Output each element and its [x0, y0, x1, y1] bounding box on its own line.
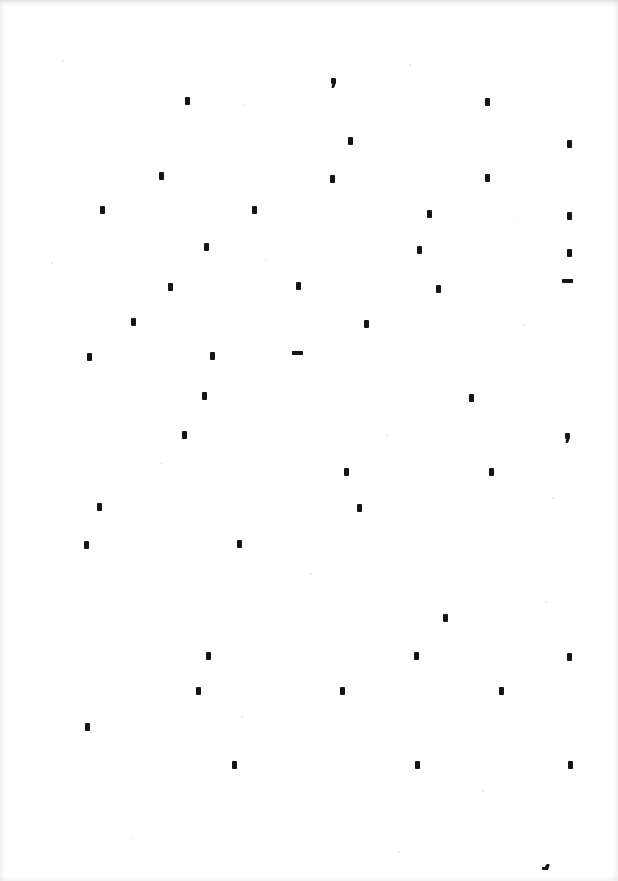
- scan-speck: [409, 64, 411, 66]
- scan-speck: [516, 219, 518, 220]
- period-mark: [159, 172, 164, 180]
- period-mark: [196, 687, 201, 695]
- scanned-page: [0, 0, 618, 881]
- period-mark: [568, 761, 573, 769]
- scan-speck: [62, 60, 64, 62]
- scan-speck: [482, 790, 484, 792]
- comma-mark: [331, 78, 336, 87]
- period-mark: [567, 212, 572, 220]
- period-mark: [87, 353, 92, 361]
- period-mark: [364, 320, 369, 328]
- hyphen-mark: [292, 351, 303, 355]
- hyphen-mark: [562, 279, 573, 283]
- scan-edge-left: [0, 0, 5, 881]
- scan-speck: [51, 262, 53, 264]
- scan-speck: [310, 573, 312, 575]
- scan-speck: [386, 434, 388, 436]
- period-mark: [357, 504, 362, 512]
- period-mark: [97, 503, 102, 511]
- scan-speck: [265, 259, 266, 261]
- comma-mark: [565, 433, 570, 442]
- smudge-mark: [542, 864, 549, 870]
- period-mark: [469, 394, 474, 402]
- period-mark: [296, 282, 301, 290]
- scan-edge-bottom: [0, 875, 618, 881]
- period-mark: [485, 174, 490, 182]
- scan-speck: [160, 463, 162, 464]
- period-mark: [252, 206, 257, 214]
- period-mark: [131, 318, 136, 326]
- period-mark: [100, 206, 105, 214]
- period-mark: [185, 97, 190, 105]
- period-mark: [84, 541, 89, 549]
- period-mark: [427, 210, 432, 218]
- period-mark: [85, 723, 90, 731]
- period-mark: [168, 283, 173, 291]
- period-mark: [567, 653, 572, 661]
- scan-speck: [523, 324, 525, 326]
- period-mark: [489, 468, 494, 476]
- period-mark: [204, 243, 209, 251]
- period-mark: [206, 652, 211, 660]
- period-mark: [436, 285, 441, 293]
- period-mark: [202, 392, 207, 400]
- scan-edge-right: [612, 0, 618, 881]
- period-mark: [237, 540, 242, 548]
- scan-edge-top: [0, 0, 618, 7]
- period-mark: [567, 249, 572, 257]
- period-mark: [210, 352, 215, 360]
- scan-speck: [131, 838, 133, 839]
- scan-speck: [243, 104, 245, 105]
- period-mark: [414, 652, 419, 660]
- scan-speck: [552, 497, 554, 499]
- period-mark: [344, 468, 349, 476]
- period-mark: [499, 687, 504, 695]
- scan-speck: [241, 716, 243, 718]
- period-mark: [348, 137, 353, 145]
- period-mark: [417, 246, 422, 254]
- scan-speck: [545, 601, 547, 603]
- period-mark: [443, 614, 448, 622]
- period-mark: [330, 175, 335, 183]
- period-mark: [567, 140, 572, 148]
- period-mark: [232, 761, 237, 769]
- scan-speck: [398, 851, 400, 853]
- period-mark: [485, 98, 490, 106]
- period-mark: [182, 431, 187, 439]
- period-mark: [340, 687, 345, 695]
- period-mark: [415, 761, 420, 769]
